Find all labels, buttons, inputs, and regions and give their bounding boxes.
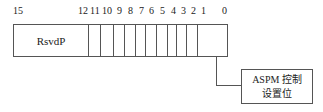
bit-number-label: 6 [149, 5, 154, 17]
field-bit-7 [136, 25, 146, 56]
bit-number-label: 1 [201, 5, 206, 17]
bit-number-label: 0 [222, 5, 227, 17]
field-bit-3 [177, 25, 187, 56]
field-bit-5 [157, 25, 168, 56]
bit-number-label: 9 [117, 5, 122, 17]
field-bit-4 [168, 25, 178, 56]
bit-number-label: 11 [90, 5, 100, 17]
bit-number-label: 15 [13, 5, 23, 17]
field-bit-2 [187, 25, 198, 56]
bit-number-label: 4 [171, 5, 176, 17]
bit-number-label: 3 [181, 5, 186, 17]
field-bit-1-0 [198, 25, 227, 56]
connector-horizontal [216, 85, 241, 86]
field-bit-6 [146, 25, 157, 56]
bit-number-label: 7 [139, 5, 144, 17]
field-bit-8 [125, 25, 136, 56]
field-rsvdp: RsvdP [14, 25, 89, 56]
bit-number-label: 5 [160, 5, 165, 17]
bit-number-label: 8 [128, 5, 133, 17]
field-bit-10 [101, 25, 114, 56]
callout-line-1: ASPM 控制 [252, 73, 302, 87]
bit-number-label: 12 [78, 5, 88, 17]
register-box: RsvdP [13, 24, 228, 57]
callout-line-2: 设置位 [262, 87, 292, 101]
field-bit-9 [114, 25, 125, 56]
bit-number-label: 10 [102, 5, 112, 17]
bit-number-label: 2 [191, 5, 196, 17]
aspm-control-callout: ASPM 控制 设置位 [241, 69, 313, 104]
field-bit-11 [89, 25, 101, 56]
connector-vertical [216, 57, 217, 86]
